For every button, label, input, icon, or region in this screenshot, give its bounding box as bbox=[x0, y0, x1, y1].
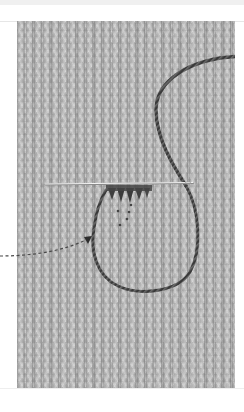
needle bbox=[45, 182, 193, 185]
arrow-head-icon bbox=[84, 236, 92, 244]
yarn-upper-strand bbox=[156, 56, 240, 186]
arrow-line bbox=[0, 240, 86, 256]
photo-overlay bbox=[0, 0, 244, 412]
page bbox=[0, 0, 244, 412]
worked-stitches bbox=[106, 185, 152, 226]
dashed-arrow bbox=[0, 236, 92, 256]
yarn-loop bbox=[93, 186, 198, 291]
